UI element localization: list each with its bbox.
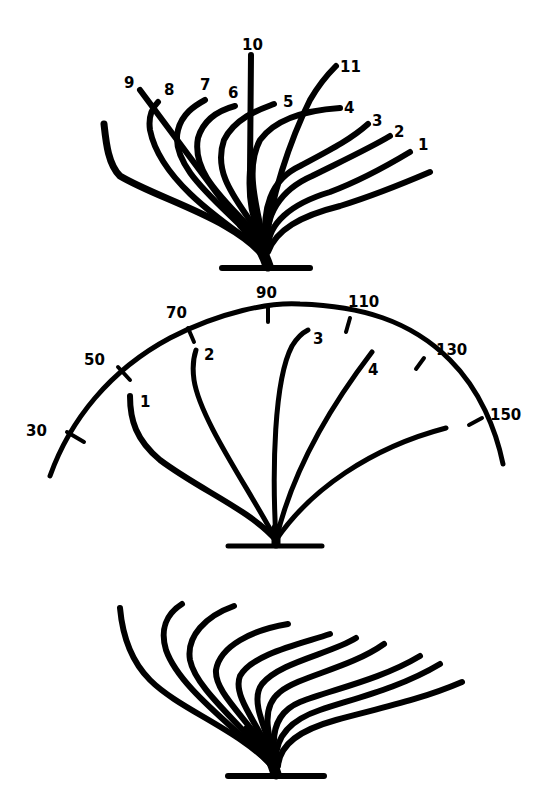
top-label-2: 2 — [394, 123, 404, 141]
top-label-9: 9 — [124, 74, 134, 92]
tick-70 — [188, 328, 194, 342]
top-label-1: 1 — [418, 136, 428, 154]
protractor-stroke-2 — [193, 350, 276, 540]
scale-label-130: 130 — [436, 341, 467, 359]
scale-label-90: 90 — [256, 284, 277, 302]
top-label-7: 7 — [200, 76, 210, 94]
protractor-fan: 30 50 70 90 110 130 150 1 2 3 4 — [26, 284, 521, 546]
stroke-label-2: 2 — [204, 346, 214, 364]
top-label-3: 3 — [372, 112, 382, 130]
top-fan-stroke-1 — [268, 152, 410, 248]
top-label-10: 10 — [242, 36, 263, 54]
tick-130 — [416, 358, 424, 369]
stroke-label-1: 1 — [140, 393, 150, 411]
top-label-8: 8 — [164, 81, 174, 99]
top-label-11: 11 — [340, 58, 361, 76]
protractor-stroke-4 — [276, 352, 372, 540]
protractor-stroke-1 — [130, 396, 276, 540]
scale-label-30: 30 — [26, 422, 47, 440]
tick-110 — [346, 318, 350, 332]
scale-label-150: 150 — [490, 406, 521, 424]
top-label-6: 6 — [228, 84, 238, 102]
scale-label-50: 50 — [84, 351, 105, 369]
stroke-label-3: 3 — [313, 330, 323, 348]
scale-label-70: 70 — [166, 304, 187, 322]
top-label-4: 4 — [344, 99, 354, 117]
scale-label-110: 110 — [348, 293, 379, 311]
top-label-5: 5 — [283, 93, 293, 111]
bottom-fan — [120, 604, 462, 776]
stroke-diagram: 1 2 3 4 5 6 7 8 9 10 11 30 50 70 90 110 … — [0, 0, 540, 787]
top-fan: 1 2 3 4 5 6 7 8 9 10 11 — [104, 36, 430, 268]
protractor-stroke-5 — [276, 428, 446, 540]
stroke-label-4: 4 — [368, 361, 378, 379]
bottom-fan-stroke-8 — [274, 656, 420, 762]
tick-150 — [469, 418, 482, 425]
